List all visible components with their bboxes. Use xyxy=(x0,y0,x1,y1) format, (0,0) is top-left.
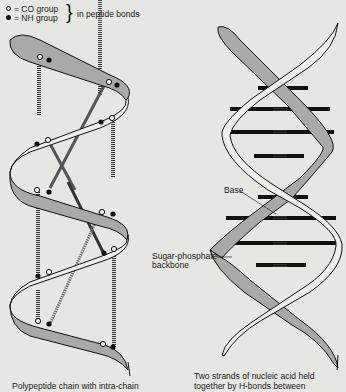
helix-ribbon-front xyxy=(10,235,128,305)
nh-group xyxy=(35,273,40,278)
base-label: Base xyxy=(224,185,243,195)
co-group xyxy=(34,187,39,192)
brace-icon: } xyxy=(66,2,73,22)
h-bond-rod xyxy=(37,60,41,116)
base-pair xyxy=(256,263,306,267)
alpha-helix xyxy=(10,0,130,376)
legend-label: = NH group xyxy=(14,13,58,23)
co-group xyxy=(37,54,42,59)
helix-ribbon-back xyxy=(10,305,128,370)
nh-group xyxy=(114,82,119,87)
nh-group xyxy=(34,141,39,146)
backbone-label: Sugar-phosphate backbone xyxy=(152,252,217,270)
helix-ribbon-back xyxy=(10,35,130,100)
caption-right: Two strands of nucleic acid held togethe… xyxy=(194,371,314,391)
nh-group xyxy=(110,344,115,349)
co-group xyxy=(111,246,116,251)
caption-left: Polypeptide chain with intra-chain xyxy=(12,381,139,391)
co-group xyxy=(100,341,105,346)
filled-circle-icon xyxy=(6,15,11,20)
diagram-canvas xyxy=(0,0,346,392)
co-group xyxy=(109,115,114,120)
dna-double-helix xyxy=(210,23,342,370)
backbone-label-line2: backbone xyxy=(152,261,217,270)
caption-right-line2: together by H-bonds between xyxy=(194,381,314,391)
open-circle-icon xyxy=(6,6,11,11)
nh-group xyxy=(101,250,106,255)
co-group xyxy=(46,269,51,274)
co-group xyxy=(45,137,50,142)
helix-ribbon-front xyxy=(10,98,128,172)
h-bond-rod xyxy=(112,248,116,348)
co-group xyxy=(106,79,111,84)
legend-item-nh: = NH group xyxy=(6,13,58,22)
base-pair xyxy=(226,241,336,245)
nh-group xyxy=(46,321,51,326)
nh-group xyxy=(46,57,51,62)
co-group xyxy=(99,209,104,214)
nh-group xyxy=(46,189,51,194)
co-group xyxy=(35,318,40,323)
legend: = CO group = NH group xyxy=(6,4,58,22)
caption-right-line1: Two strands of nucleic acid held xyxy=(194,371,314,381)
base-pair xyxy=(254,154,304,158)
h-bond-rod xyxy=(111,118,115,178)
legend-brace-label: in peptide bonds xyxy=(77,9,139,19)
h-bond-rod xyxy=(36,290,40,320)
nh-group xyxy=(110,211,115,216)
h-bond-rod xyxy=(98,0,102,45)
nh-group xyxy=(98,119,103,124)
